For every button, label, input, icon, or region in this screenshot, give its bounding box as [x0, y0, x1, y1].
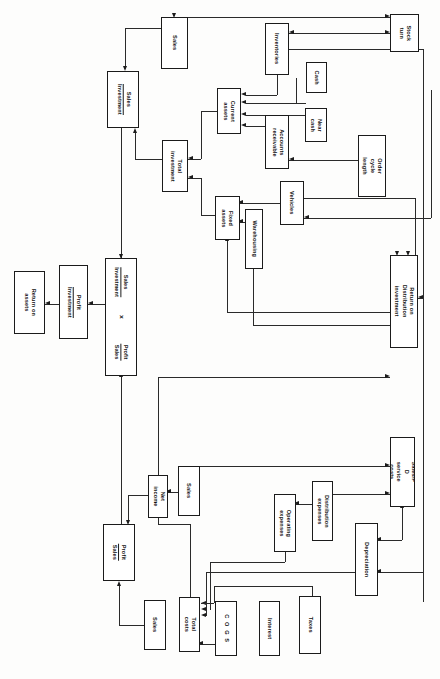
connector	[378, 572, 423, 573]
arrow-head	[385, 374, 390, 378]
arrow-head	[304, 215, 309, 219]
arrow-head	[133, 128, 137, 133]
connector	[246, 126, 265, 127]
node-order-cycle-length-label: Order cycle length	[361, 153, 383, 179]
node-taxes-label: Taxes	[306, 617, 313, 633]
node-depreciation[interactable]: Depreciation	[355, 523, 378, 596]
connector	[190, 466, 390, 467]
node-order-cycle-length[interactable]: Order cycle length	[358, 135, 386, 197]
connector	[174, 17, 390, 18]
arrow-head	[45, 301, 50, 305]
node-stock-turn-label: Stock turn	[397, 25, 412, 41]
connector	[201, 111, 202, 159]
arrow-head	[289, 30, 294, 34]
connector	[125, 28, 126, 66]
node-near-cash[interactable]: Near cash	[305, 108, 327, 142]
arrow-head	[88, 301, 93, 305]
connector	[227, 240, 228, 312]
node-sales-top[interactable]: Sales	[161, 17, 188, 69]
node-operating-expenses[interactable]: Operating expenses	[274, 494, 296, 552]
arrow-head	[201, 613, 206, 617]
node-cogs-label: C O G S	[222, 614, 229, 643]
connector	[158, 524, 190, 525]
node-cogs[interactable]: C O G S	[215, 601, 237, 656]
node-net-income-label: Net income	[151, 486, 166, 506]
connector	[378, 540, 402, 541]
connector	[253, 269, 254, 325]
node-return-on-assets[interactable]: Return on assets	[14, 271, 45, 334]
node-taxes[interactable]: Taxes	[299, 596, 321, 654]
node-total-investment-label: Total investment	[168, 151, 183, 182]
node-stock-turn[interactable]: Stock turn	[390, 14, 419, 52]
node-depreciation-label: Depreciation	[363, 542, 370, 577]
connector	[304, 198, 415, 199]
connector	[277, 75, 278, 95]
node-interest[interactable]: Interest	[259, 601, 280, 656]
connector	[121, 376, 122, 524]
connector	[201, 111, 217, 112]
node-near-cash-label: Near cash	[309, 118, 324, 131]
connector	[285, 552, 286, 562]
connector	[402, 507, 403, 540]
node-interest-label: Interest	[266, 618, 273, 639]
connector	[304, 218, 431, 219]
connector	[125, 28, 161, 29]
arrow-head	[241, 100, 246, 104]
arrow-head	[188, 175, 193, 179]
connector	[312, 586, 313, 596]
node-total-costs[interactable]: Total costs	[179, 597, 200, 652]
node-net-income[interactable]: Net income	[148, 475, 168, 518]
connector	[210, 562, 285, 563]
node-vehicles-label: Vehicles	[288, 191, 295, 214]
connector	[119, 625, 144, 626]
node-return-on-distribution[interactable]: Return on Distribution investment	[390, 255, 418, 348]
node-vehicles[interactable]: Vehicles	[280, 181, 304, 225]
node-profit-sales-lower[interactable]: ProfitSales	[103, 524, 135, 581]
node-ratio-stack-operator: ×	[118, 315, 125, 319]
connector	[289, 160, 358, 161]
node-cash-label: Cash	[313, 70, 320, 84]
connector	[190, 524, 191, 597]
node-fixed-assets-label: Fixed assets	[220, 209, 235, 227]
node-current-assets[interactable]: Current assets	[217, 88, 241, 134]
node-total-investment[interactable]: Total investment	[162, 140, 188, 192]
arrow-head	[241, 123, 246, 127]
node-accounts-receivable[interactable]: Accounts receivable	[265, 115, 289, 169]
node-cash[interactable]: Cash	[306, 62, 327, 93]
node-current-assets-label: Current assets	[222, 100, 237, 121]
arrow-head	[117, 581, 121, 586]
node-operating-expenses-label: Operating expenses	[278, 509, 293, 537]
node-profit-investment[interactable]: ProfitInvestment	[59, 265, 88, 339]
node-return-on-assets-label: Return on assets	[22, 289, 37, 317]
node-sales-pd-service[interactable]: Sales/P D service costs	[390, 437, 415, 507]
connector	[135, 133, 136, 159]
node-sales-costs[interactable]: Sales	[144, 600, 166, 650]
node-sales-investment-top[interactable]: SalesInvestment	[107, 71, 139, 128]
node-ratio-stack-upper-ratio: SalesInvestment	[113, 267, 130, 297]
connector	[201, 603, 214, 604]
connector	[158, 377, 159, 475]
node-warehousing[interactable]: Warehousing	[245, 209, 263, 269]
node-sales-net[interactable]: Sales	[178, 466, 200, 516]
node-profit-sales-lower-label: ProfitSales	[111, 544, 128, 561]
node-ratio-stack-lower-ratio: ProfitSales	[113, 343, 130, 360]
node-ratio-stack[interactable]: SalesInvestment×ProfitSales	[105, 258, 137, 376]
connector	[240, 203, 280, 204]
node-distribution-expenses-label: Distribution expenses	[315, 495, 330, 528]
node-distribution-expenses[interactable]: Distribution expenses	[312, 481, 333, 541]
connector	[423, 49, 424, 602]
node-profit-investment-label: ProfitInvestment	[65, 287, 82, 318]
connector	[296, 78, 297, 103]
connector	[201, 178, 202, 215]
node-fixed-assets[interactable]: Fixed assets	[215, 196, 240, 240]
connector	[253, 325, 408, 326]
node-sales-costs-label: Sales	[151, 617, 158, 632]
node-accounts-receivable-label: Accounts receivable	[270, 128, 285, 157]
connector	[418, 298, 423, 299]
node-sales-top-label: Sales	[171, 35, 178, 50]
arrow-head	[188, 156, 193, 160]
connector	[206, 572, 207, 616]
node-inventories[interactable]: Inventories	[265, 23, 289, 75]
connector	[121, 128, 122, 258]
connector	[119, 586, 120, 625]
